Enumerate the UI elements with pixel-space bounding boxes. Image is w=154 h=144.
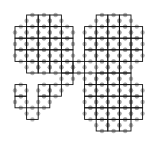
bottom-right-octagon-dots xyxy=(82,71,144,133)
bottom-right-octagon xyxy=(85,73,143,131)
top-right-octagon xyxy=(85,15,143,73)
diagram-canvas xyxy=(0,0,154,144)
top-right-octagon-dots xyxy=(82,13,144,75)
grid-cells-layer xyxy=(15,15,143,131)
top-left-octagon xyxy=(15,15,73,73)
top-left-octagon-dots xyxy=(13,13,75,75)
